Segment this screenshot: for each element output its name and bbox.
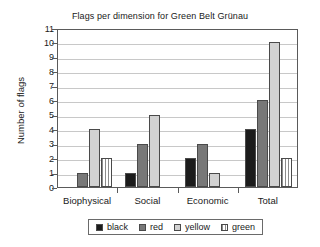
y-axis-tick-label: 10 <box>14 39 54 48</box>
plot-area <box>57 29 298 188</box>
legend-swatch-icon <box>96 224 103 231</box>
bar-group <box>179 30 239 187</box>
bar-group <box>58 30 118 187</box>
bar-green <box>281 158 292 187</box>
y-axis-tick-label: 6 <box>14 97 54 106</box>
x-axis-tick-label: Biophysical <box>57 195 117 206</box>
legend-item[interactable]: yellow <box>174 222 210 232</box>
bar-group <box>118 30 178 187</box>
bar-group <box>239 30 299 187</box>
y-axis-tick-label: 2 <box>14 155 54 164</box>
bar-red <box>77 173 88 187</box>
legend-item[interactable]: green <box>221 222 255 232</box>
chart-title: Flags per dimension for Green Belt Grüna… <box>0 11 320 21</box>
y-axis-tick-label: 3 <box>14 140 54 149</box>
x-axis-tick-mark <box>117 188 118 193</box>
bar-red <box>257 100 268 187</box>
x-axis-tick-mark <box>178 188 179 193</box>
y-axis-tick-label: 5 <box>14 111 54 120</box>
bar-black <box>245 129 256 187</box>
y-axis-tick-label: 9 <box>14 53 54 62</box>
legend-label: green <box>232 222 255 232</box>
bar-black <box>125 173 136 187</box>
legend-swatch-icon <box>221 224 228 231</box>
chart-legend: blackredyellowgreen <box>88 219 263 235</box>
bar-yellow <box>269 42 280 187</box>
legend-label: red <box>150 222 163 232</box>
x-axis-tick-label: Total <box>238 195 298 206</box>
y-axis-tick-label: 4 <box>14 126 54 135</box>
y-axis-tick-mark <box>52 188 57 189</box>
legend-label: black <box>107 222 128 232</box>
legend-item[interactable]: red <box>139 222 163 232</box>
legend-item[interactable]: black <box>96 222 128 232</box>
x-axis-tick-label: Economic <box>178 195 238 206</box>
legend-label: yellow <box>185 222 210 232</box>
y-axis-tick-label: 11 <box>14 25 54 34</box>
bar-red <box>137 144 148 187</box>
legend-swatch-icon <box>139 224 146 231</box>
y-axis-tick-label: 7 <box>14 82 54 91</box>
bar-red <box>197 144 208 187</box>
bar-yellow <box>89 129 100 187</box>
legend-swatch-icon <box>174 224 181 231</box>
y-axis-tick-label: 1 <box>14 169 54 178</box>
bar-yellow <box>209 173 220 187</box>
y-axis-tick-label: 0 <box>14 184 54 193</box>
chart-figure: Flags per dimension for Green Belt Grüna… <box>0 0 320 247</box>
x-axis-tick-mark <box>238 188 239 193</box>
x-axis-tick-label: Social <box>117 195 177 206</box>
bar-black <box>185 158 196 187</box>
bar-green <box>101 158 112 187</box>
y-axis-tick-label: 8 <box>14 68 54 77</box>
bar-yellow <box>149 115 160 187</box>
